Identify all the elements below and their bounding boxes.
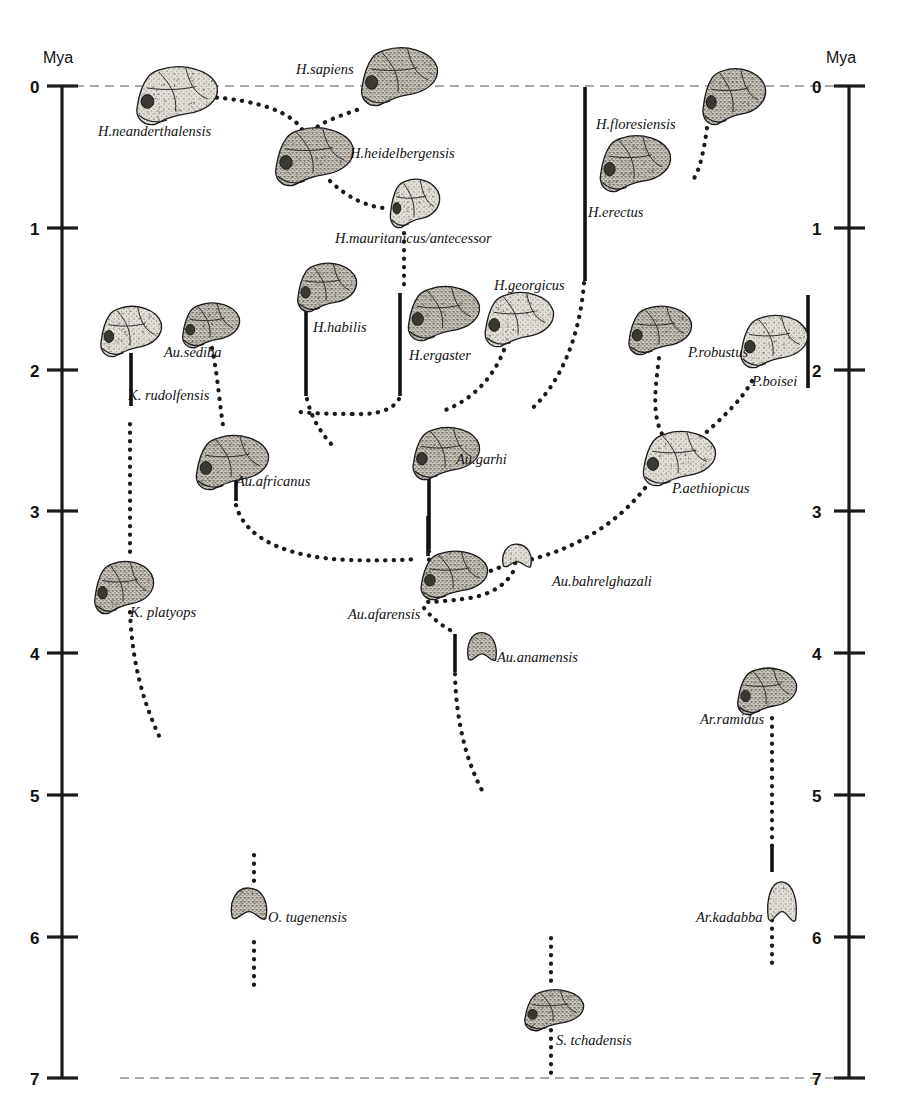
left-tick-7: 7 xyxy=(30,1070,39,1089)
lineage-floresiensis-erectus xyxy=(693,128,707,180)
skull-icon-ar-ramidus xyxy=(735,665,797,715)
left-tick-5: 5 xyxy=(30,787,39,806)
skull-icon-h-erectus xyxy=(596,132,670,193)
skull-icon-h-georgicus xyxy=(484,288,555,347)
taxon-label-h-sapiens: H.sapiens xyxy=(296,62,354,77)
taxon-label-au-garhi: Au.garhi xyxy=(456,452,507,467)
right-axis xyxy=(834,86,865,1079)
lineage-junction-to-afarensis-left xyxy=(300,412,352,414)
right-tick-2: 2 xyxy=(812,362,821,381)
left-tick-3: 3 xyxy=(30,503,39,522)
left-tick-2: 2 xyxy=(30,362,39,381)
right-tick-3: 3 xyxy=(812,503,821,522)
taxon-label-au-anamensis: Au.anamensis xyxy=(497,650,578,665)
skull-icon-au-sediba xyxy=(179,299,240,348)
skull-icon-s-tchadensis xyxy=(523,986,585,1031)
right-tick-0: 0 xyxy=(812,78,821,97)
lineage-platyops-down xyxy=(130,612,160,738)
left-axis-labels: Mya 0 1 2 3 4 5 6 7 xyxy=(30,49,73,1089)
lineage-heidelbergensis-mauritanicus xyxy=(330,181,384,208)
taxon-label-h-erectus: H.erectus xyxy=(588,205,643,220)
right-axis-title: Mya xyxy=(826,49,856,66)
taxon-label-h-habilis: H.habilis xyxy=(313,320,367,335)
right-tick-4: 4 xyxy=(812,645,822,664)
lineage-robustus-aethiopicus xyxy=(655,358,662,434)
skull-icon-au-anamensis xyxy=(465,631,500,664)
taxon-label-h-ergaster: H.ergaster xyxy=(409,348,471,363)
lineage-afarensis-anamensis xyxy=(424,608,452,631)
skull-icon-h-habilis xyxy=(294,260,356,313)
left-axis xyxy=(47,86,78,1079)
skull-icon-ar-kadabba xyxy=(765,878,799,925)
left-tick-1: 1 xyxy=(30,220,39,239)
taxon-label-ar-ramidus: Ar.ramidus xyxy=(700,712,764,727)
taxon-label-au-bahrelghazali: Au.bahrelghazali xyxy=(552,574,652,589)
left-axis-title: Mya xyxy=(43,49,73,66)
skull-icon-p-aethiopicus xyxy=(639,428,716,487)
skull-icon-au-bahrelghazali xyxy=(501,542,535,569)
taxon-label-s-tchadensis: S. tchadensis xyxy=(556,1033,632,1048)
left-tick-6: 6 xyxy=(30,929,39,948)
taxon-label-p-boisei: P.boisei xyxy=(752,374,797,389)
skull-icon-h-sapiens xyxy=(357,44,438,106)
skull-icon-h-heidelbergensis xyxy=(271,124,354,187)
left-tick-4: 4 xyxy=(30,645,40,664)
lineage-africanus-afarensis xyxy=(236,505,418,560)
right-tick-5: 5 xyxy=(812,787,821,806)
skull-icon-h-ergaster xyxy=(404,283,480,342)
taxon-label-au-africanus: Au.africanus xyxy=(236,474,311,489)
skull-icon-h-neanderthalensis xyxy=(133,62,219,125)
taxon-label-h-heidelbergensis: H.heidelbergensis xyxy=(350,146,455,161)
skull-icon-p-boisei xyxy=(738,311,809,368)
lineage-anamensis-down xyxy=(455,674,484,794)
timeline-svg: Mya 0 1 2 3 4 5 6 7 Mya 0 1 2 3 4 5 6 7 xyxy=(0,0,904,1116)
taxon-label-ar-kadabba: Ar.kadabba xyxy=(696,910,762,925)
right-tick-1: 1 xyxy=(812,220,821,239)
skull-illustration-layer xyxy=(91,44,808,1031)
hominin-timeline-figure: Mya 0 1 2 3 4 5 6 7 Mya 0 1 2 3 4 5 6 7 … xyxy=(0,0,904,1116)
taxon-label-h-georgicus: H.georgicus xyxy=(494,278,565,293)
skull-icon-k-rudolfensis xyxy=(98,303,162,357)
skull-icon-h-mauritanicus-antecessor xyxy=(388,175,439,228)
skull-icon-o-tugenensis xyxy=(228,884,271,922)
taxon-label-k-platyops: K. platyops xyxy=(130,605,196,620)
lineage-habilis-down xyxy=(307,399,333,446)
taxon-label-au-sediba: Au.sediba xyxy=(164,345,222,360)
taxon-label-h-mauritanicus-antecessor: H.mauritanicus/antecessor xyxy=(335,231,492,246)
taxon-label-k-rudolfensis: K. rudolfensis xyxy=(128,388,209,403)
taxon-label-au-afarensis: Au.afarensis xyxy=(348,607,420,622)
lineage-neanderthalensis-heidelbergensis xyxy=(208,97,303,131)
lineage-boisei-aethiopicus xyxy=(700,381,752,438)
right-tick-6: 6 xyxy=(812,929,821,948)
taxon-label-p-robustus: P.robustus xyxy=(688,345,748,360)
taxon-label-h-floresiensis: H.floresiensis xyxy=(596,117,676,132)
taxon-label-o-tugenensis: O. tugenensis xyxy=(268,910,347,925)
skull-icon-h-floresiensis xyxy=(700,64,767,125)
taxon-label-h-neanderthalensis: H.neanderthalensis xyxy=(98,124,211,139)
lineage-sediba-africanus xyxy=(212,348,224,432)
left-tick-0: 0 xyxy=(30,78,39,97)
lineage-ergaster-down xyxy=(352,399,399,414)
taxon-label-p-aethiopicus: P.aethiopicus xyxy=(672,481,749,496)
skull-icon-p-robustus xyxy=(626,302,692,355)
right-tick-7: 7 xyxy=(812,1070,821,1089)
